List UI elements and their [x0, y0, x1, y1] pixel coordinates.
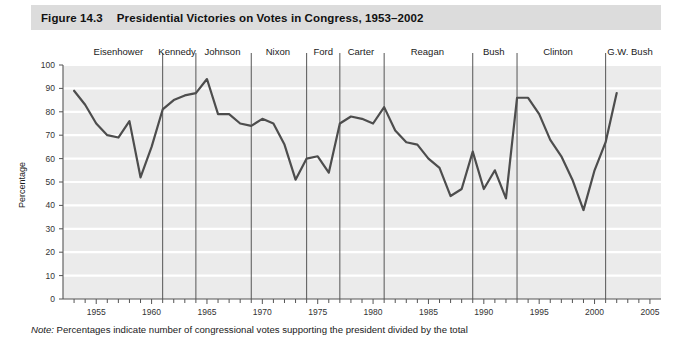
president-label-bush: Bush — [483, 46, 505, 57]
president-label-nixon: Nixon — [266, 46, 290, 57]
x-tick-label: 1975 — [308, 307, 327, 317]
president-label-g-w-bush: G.W. Bush — [607, 46, 652, 57]
x-tick-label: 1965 — [197, 307, 216, 317]
x-tick-label: 1990 — [474, 307, 493, 317]
president-label-kennedy: Kennedy — [158, 46, 196, 57]
y-tick-label: 80 — [35, 107, 55, 117]
x-tick-label: 1980 — [364, 307, 383, 317]
y-tick-label: 100 — [35, 60, 55, 70]
president-label-reagan: Reagan — [411, 46, 444, 57]
x-tick-label: 1985 — [419, 307, 438, 317]
x-tick-label: 2005 — [640, 307, 659, 317]
x-tick-label: 1960 — [142, 307, 161, 317]
president-label-carter: Carter — [348, 46, 374, 57]
x-tick-label: 2000 — [585, 307, 604, 317]
chart-container: EisenhowerKennedyJohnsonNixonFordCarterR… — [0, 0, 684, 345]
y-tick-label: 30 — [35, 224, 55, 234]
x-tick-label: 1995 — [530, 307, 549, 317]
president-label-eisenhower: Eisenhower — [94, 46, 144, 57]
y-tick-label: 20 — [35, 247, 55, 257]
y-tick-label: 50 — [35, 177, 55, 187]
y-tick-label: 0 — [35, 294, 55, 304]
president-label-ford: Ford — [313, 46, 333, 57]
y-tick-label: 90 — [35, 83, 55, 93]
y-tick-label: 60 — [35, 154, 55, 164]
president-label-johnson: Johnson — [204, 46, 240, 57]
x-tick-label: 1955 — [87, 307, 106, 317]
x-tick-label: 1970 — [253, 307, 272, 317]
y-tick-label: 40 — [35, 200, 55, 210]
y-tick-label: 10 — [35, 271, 55, 281]
note-text: Percentages indicate number of congressi… — [54, 324, 468, 335]
y-axis-title: Percentage — [17, 162, 27, 208]
figure-note: Note: Percentages indicate number of con… — [31, 324, 671, 335]
note-label: Note: — [31, 324, 54, 335]
y-tick-label: 70 — [35, 130, 55, 140]
president-label-clinton: Clinton — [543, 46, 573, 57]
